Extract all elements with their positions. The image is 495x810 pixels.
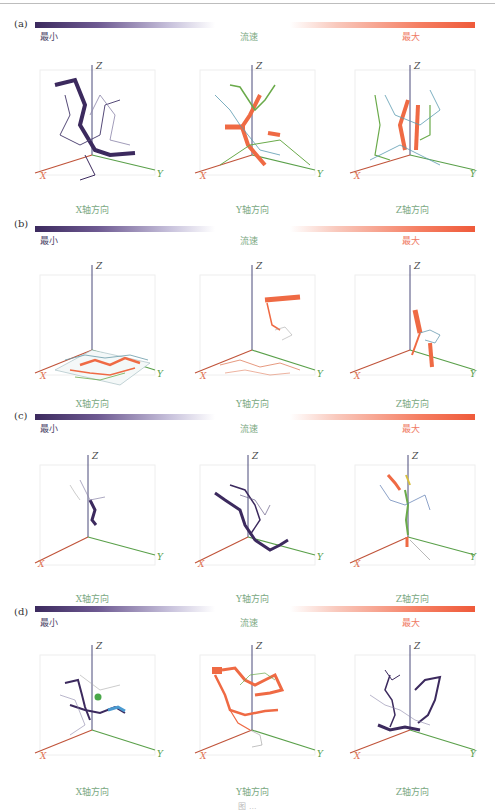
colorbar-low: [35, 22, 215, 28]
colorbar-max-label: 最大: [402, 422, 420, 435]
svg-text:Y: Y: [470, 369, 477, 379]
colorbar-high: [290, 414, 475, 420]
colorbar-high: [290, 226, 475, 232]
colorbar-mid-label: 流速: [240, 30, 258, 43]
colorbar-max-label: 最大: [402, 616, 420, 629]
colorbar-mid-label: 流速: [240, 422, 258, 435]
svg-text:Y: Y: [317, 552, 324, 562]
svg-text:Y: Y: [470, 552, 477, 562]
svg-text:Y: Y: [157, 369, 164, 379]
direction-label-z: Z轴方向: [330, 785, 495, 798]
svg-text:Z: Z: [413, 641, 421, 651]
colorbar-min-label: 最小: [40, 234, 58, 247]
svg-text:Z: Z: [95, 261, 103, 271]
plot-c-x: Z X Y: [10, 445, 175, 595]
plot-d-z: Z X Y: [330, 635, 495, 785]
colorbar-high: [290, 22, 475, 28]
svg-text:Z: Z: [411, 451, 419, 461]
svg-text:Z: Z: [413, 261, 421, 271]
network-3d-plot: Z X Y: [330, 55, 495, 205]
svg-text:X: X: [197, 559, 205, 569]
network-3d-plot: Z X Y: [170, 55, 335, 205]
svg-text:Y: Y: [157, 552, 164, 562]
svg-text:Y: Y: [157, 169, 164, 179]
direction-label-x: X轴方向: [10, 785, 175, 798]
svg-text:X: X: [199, 371, 207, 381]
plot-d-y: Z X Y: [170, 635, 335, 785]
direction-label-y: Y轴方向: [170, 397, 335, 410]
top-rule: [0, 3, 495, 4]
svg-text:X: X: [199, 751, 207, 761]
direction-label-z: Z轴方向: [330, 203, 495, 216]
network-3d-plot: Z X Y: [170, 635, 335, 785]
plot-d-x: Z X Y: [10, 635, 175, 785]
svg-text:Y: Y: [470, 749, 477, 759]
network-3d-plot: Z X Y: [170, 255, 335, 405]
svg-text:Z: Z: [251, 451, 259, 461]
colorbar-min-label: 最小: [40, 30, 58, 43]
colorbar-max-label: 最大: [402, 234, 420, 247]
svg-text:Z: Z: [255, 61, 263, 71]
svg-text:Z: Z: [95, 61, 103, 71]
colorbar-max-label: 最大: [402, 30, 420, 43]
colorbar-low: [35, 414, 215, 420]
direction-label-y: Y轴方向: [170, 592, 335, 605]
plot-c-y: Z X Y: [170, 445, 335, 595]
direction-label-z: Z轴方向: [330, 397, 495, 410]
network-3d-plot: Z X Y: [330, 255, 495, 405]
network-3d-plot: Z X Y: [330, 445, 495, 595]
network-3d-plot: Z X Y: [10, 445, 175, 595]
network-3d-plot: Z X Y: [10, 255, 175, 405]
svg-text:X: X: [37, 559, 45, 569]
panel-label: (c): [14, 410, 27, 421]
svg-text:Z: Z: [95, 641, 103, 651]
plot-b-y: Z X Y: [170, 255, 335, 405]
svg-text:Z: Z: [255, 261, 263, 271]
network-3d-plot: Z X Y: [330, 635, 495, 785]
svg-text:Z: Z: [91, 451, 99, 461]
network-3d-plot: Z X Y: [10, 635, 175, 785]
panel-label: (d): [14, 606, 28, 617]
direction-label-x: X轴方向: [10, 203, 175, 216]
colorbar-mid-label: 流速: [240, 616, 258, 629]
svg-text:Y: Y: [317, 169, 324, 179]
plot-a-z: Z X Y: [330, 55, 495, 205]
direction-label-z: Z轴方向: [330, 592, 495, 605]
colorbar-min-label: 最小: [40, 422, 58, 435]
svg-text:X: X: [39, 171, 47, 181]
svg-text:Z: Z: [255, 641, 263, 651]
panel-label: (a): [14, 18, 28, 29]
colorbar-low: [35, 606, 215, 612]
svg-text:Z: Z: [413, 61, 421, 71]
colorbar-mid-label: 流速: [240, 234, 258, 247]
svg-text:Y: Y: [317, 369, 324, 379]
svg-text:Y: Y: [470, 169, 477, 179]
svg-text:Y: Y: [157, 749, 164, 759]
colorbar-low: [35, 226, 215, 232]
plot-c-z: Z X Y: [330, 445, 495, 595]
svg-text:X: X: [199, 171, 207, 181]
colorbar-min-label: 最小: [40, 616, 58, 629]
direction-label-y: Y轴方向: [170, 785, 335, 798]
direction-label-x: X轴方向: [10, 397, 175, 410]
direction-label-x: X轴方向: [10, 592, 175, 605]
svg-text:X: X: [39, 371, 47, 381]
direction-label-y: Y轴方向: [170, 203, 335, 216]
svg-text:X: X: [353, 371, 361, 381]
network-3d-plot: Z X Y: [170, 445, 335, 595]
svg-text:Y: Y: [317, 749, 324, 759]
svg-text:X: X: [39, 751, 47, 761]
panel-label: (b): [14, 218, 28, 229]
figure-caption: 图 ...: [0, 800, 495, 810]
plot-a-x: Z X Y: [10, 55, 175, 205]
plot-b-z: Z X Y: [330, 255, 495, 405]
plot-b-x: Z X Y: [10, 255, 175, 405]
plot-a-y: Z X Y: [170, 55, 335, 205]
svg-text:X: X: [353, 751, 361, 761]
svg-text:X: X: [353, 171, 361, 181]
network-3d-plot: Z X Y: [10, 55, 175, 205]
colorbar-high: [290, 606, 475, 612]
svg-text:X: X: [353, 559, 361, 569]
